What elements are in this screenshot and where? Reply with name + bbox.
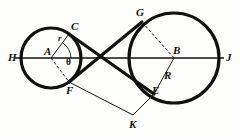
point-label-G: G xyxy=(136,7,144,18)
point-label-K: K xyxy=(129,119,136,130)
point-label-H: H xyxy=(8,52,17,63)
geometry-canvas xyxy=(0,0,239,138)
radius-label-R: R xyxy=(164,70,171,81)
point-label-J: J xyxy=(226,52,232,63)
segment-F-to-K xyxy=(69,82,133,115)
angle-theta-arc xyxy=(63,43,71,58)
geometry-figure: H A C F G B E J K r R θ xyxy=(0,0,239,138)
point-label-C: C xyxy=(71,21,78,32)
point-label-B: B xyxy=(173,45,180,56)
point-label-E: E xyxy=(152,85,159,96)
radius-line-B-to-G xyxy=(142,22,174,58)
point-label-A: A xyxy=(44,46,51,57)
radius-label-r: r xyxy=(58,34,62,43)
angle-label-theta: θ xyxy=(66,58,71,68)
point-label-F: F xyxy=(66,85,73,96)
segment-E-to-K xyxy=(133,94,154,115)
